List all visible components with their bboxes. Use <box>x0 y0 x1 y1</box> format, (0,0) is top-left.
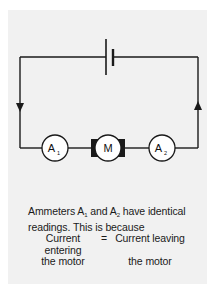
equation-right-top: Current leaving <box>110 233 190 256</box>
equation-row-top: Current entering = Current leaving <box>28 233 208 256</box>
ammeter-2-label: A <box>155 142 163 154</box>
ammeter-1-label: A <box>48 142 56 154</box>
equation-right-bottom: the motor <box>110 256 190 268</box>
battery-icon <box>106 39 113 75</box>
arrow-down-icon <box>16 103 24 112</box>
equation-row-bottom: the motor the motor <box>28 256 208 268</box>
motor-label: M <box>103 142 112 154</box>
equation-left-top: Current entering <box>28 233 98 256</box>
equals-sign: = <box>98 233 110 256</box>
ammeter-2-icon: A 2 <box>149 135 175 161</box>
motor-icon: M <box>91 135 125 161</box>
arrow-up-icon <box>194 101 202 110</box>
ammeter-2-subscript: 2 <box>164 150 167 156</box>
caption: Ammeters A1 and A2 have identical readin… <box>28 206 208 268</box>
wires <box>20 57 198 148</box>
equation-left-bottom: the motor <box>28 256 98 268</box>
caption-line-1: Ammeters A1 and A2 have identical <box>28 206 208 222</box>
ammeter-1-icon: A 1 <box>42 135 68 161</box>
ammeter-1-subscript: 1 <box>57 150 60 156</box>
